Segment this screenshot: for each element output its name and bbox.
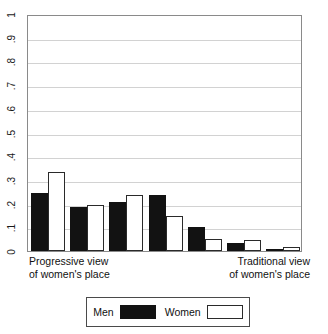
y-tick-label: .7 xyxy=(6,74,18,98)
bar-women-2 xyxy=(87,205,104,251)
bar-women-1 xyxy=(48,172,65,251)
y-axis-tick-labels: 0.1.2.3.4.5.6.7.8.91 xyxy=(0,0,27,334)
x-axis-caption-right-line2: of women's place xyxy=(229,268,310,281)
legend-entry-women: Women xyxy=(165,305,243,319)
x-axis-caption-left-line2: of women's place xyxy=(29,268,110,281)
bar-men-3 xyxy=(109,202,126,251)
plot-area xyxy=(27,15,302,252)
legend-entry-men: Men xyxy=(93,305,155,319)
y-tick-label: .8 xyxy=(6,50,18,74)
bar-women-6 xyxy=(244,240,261,251)
bar-men-5 xyxy=(188,227,205,251)
y-tick-label: .6 xyxy=(6,98,18,122)
legend-label-men: Men xyxy=(93,306,113,318)
legend-swatch-men xyxy=(120,305,156,319)
legend-label-women: Women xyxy=(165,306,201,318)
y-tick-label: 0 xyxy=(6,240,18,264)
bar-men-2 xyxy=(70,207,87,251)
y-tick-label: 1 xyxy=(6,3,18,27)
x-axis-caption-right-line1: Traditional view xyxy=(229,255,310,268)
y-tick-label: .2 xyxy=(6,193,18,217)
y-tick-label: .5 xyxy=(6,122,18,146)
y-tick-label: .4 xyxy=(6,145,18,169)
bar-women-4 xyxy=(166,216,183,251)
y-tick-label: .1 xyxy=(6,216,18,240)
y-tick-label: .9 xyxy=(6,27,18,51)
bar-men-7 xyxy=(266,249,283,251)
chart-legend: Men Women xyxy=(86,297,250,327)
legend-swatch-women xyxy=(207,305,243,319)
bar-women-5 xyxy=(205,239,222,251)
bar-men-1 xyxy=(31,193,48,251)
bar-chart-figure: 0.1.2.3.4.5.6.7.8.91 Progressive view of… xyxy=(0,0,328,334)
bar-women-7 xyxy=(283,247,300,251)
bar-men-6 xyxy=(227,243,244,251)
bar-women-3 xyxy=(126,195,143,251)
x-axis-caption-left: Progressive view of women's place xyxy=(29,255,110,280)
bar-men-4 xyxy=(149,195,166,251)
x-axis-caption-left-line1: Progressive view xyxy=(29,255,110,268)
x-axis-caption-right: Traditional view of women's place xyxy=(229,255,310,280)
bars-layer xyxy=(28,16,301,251)
y-tick-label: .3 xyxy=(6,169,18,193)
